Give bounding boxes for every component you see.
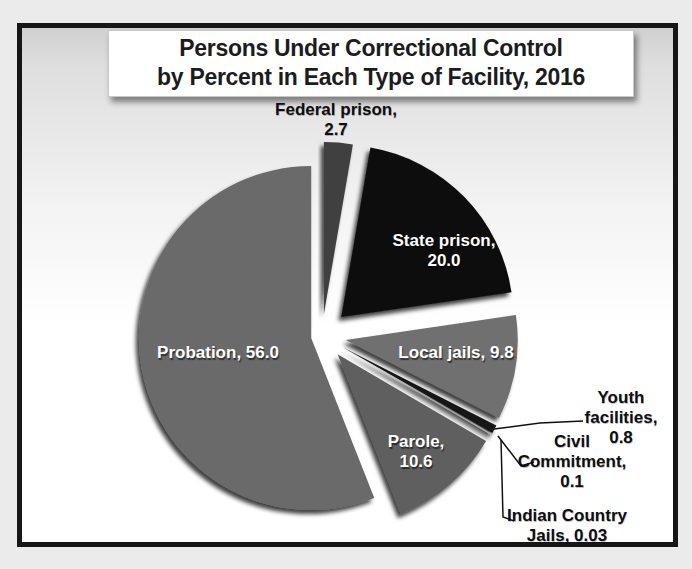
chart-title-line-2: by Percent in Each Type of Facility, 201… xyxy=(109,63,633,92)
leader-line-youth-facilities xyxy=(494,421,583,429)
callout-label-indian-country-jails: Indian Country Jails, 0.03 xyxy=(507,506,627,546)
callout-label-civil-commitment: Civil Commitment, 0.1 xyxy=(518,432,627,492)
chart-title-line-1: Persons Under Correctional Control xyxy=(109,34,633,63)
chart-title-box: Persons Under Correctional Control by Pe… xyxy=(108,30,634,97)
slice-label-local-jails: Local jails, 9.8 xyxy=(398,343,513,363)
pie-slices-group xyxy=(139,142,518,514)
slice-label-federal-prison: Federal prison, 2.7 xyxy=(275,100,397,140)
slice-label-state-prison: State prison, 20.0 xyxy=(393,231,496,271)
slice-label-parole: Parole, 10.6 xyxy=(388,432,445,472)
slice-label-probation: Probation, 56.0 xyxy=(157,343,279,363)
